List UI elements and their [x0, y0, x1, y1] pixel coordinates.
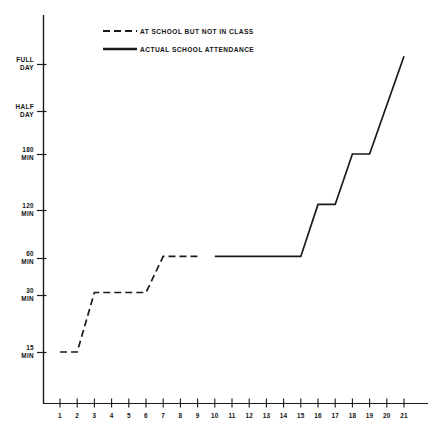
x-tick-label: 12 — [241, 412, 257, 420]
y-tick-label-line2: MIN — [0, 352, 34, 360]
y-tick-label-line2: MIN — [0, 154, 34, 162]
y-tick-label: 15 MIN — [0, 344, 34, 359]
legend-item-actual-school-attendance: ACTUAL SCHOOL ATTENDANCE — [103, 44, 254, 54]
x-tick-label: 19 — [362, 412, 378, 420]
y-tick-label-line2: MIN — [0, 295, 34, 303]
chart-plot-area — [0, 0, 438, 439]
x-tick-label: 17 — [327, 412, 343, 420]
x-tick-label: 6 — [138, 412, 154, 420]
y-tick-label-line1: FULL — [0, 56, 34, 64]
x-tick-label: 3 — [86, 412, 102, 420]
attendance-step-chart: FULL DAY HALF DAY 180 MIN 120 MIN 60 MIN… — [0, 0, 438, 439]
y-tick-label: 180 MIN — [0, 146, 34, 161]
y-tick-label: 120 MIN — [0, 202, 34, 217]
y-axis-ticks — [37, 65, 47, 353]
y-tick-label-line2: MIN — [0, 210, 34, 218]
y-tick-label-line2: DAY — [0, 111, 34, 119]
legend-label: ACTUAL SCHOOL ATTENDANCE — [140, 46, 254, 53]
x-tick-label: 10 — [207, 412, 223, 420]
y-tick-label-line1: 120 — [0, 202, 34, 210]
x-tick-label: 7 — [155, 412, 171, 420]
legend-dashed-line-icon — [103, 27, 137, 35]
x-tick-label: 15 — [293, 412, 309, 420]
series-at-school-not-in-class — [60, 256, 198, 352]
y-tick-label-line2: DAY — [0, 64, 34, 72]
y-tick-label: 30 MIN — [0, 287, 34, 302]
y-tick-label: 60 MIN — [0, 250, 34, 265]
y-tick-label-line1: 30 — [0, 287, 34, 295]
x-tick-label: 14 — [276, 412, 292, 420]
x-tick-label: 20 — [379, 412, 395, 420]
y-tick-label: HALF DAY — [0, 103, 34, 118]
series-actual-school-attendance — [215, 56, 404, 256]
x-tick-label: 8 — [172, 412, 188, 420]
x-tick-label: 9 — [190, 412, 206, 420]
y-tick-label-line1: 180 — [0, 146, 34, 154]
x-tick-label: 5 — [121, 412, 137, 420]
x-tick-label: 4 — [104, 412, 120, 420]
legend-item-at-school-not-in-class: AT SCHOOL BUT NOT IN CLASS — [103, 26, 254, 36]
x-tick-label: 2 — [69, 412, 85, 420]
legend-solid-line-icon — [103, 45, 137, 53]
x-tick-label: 1 — [52, 412, 68, 420]
y-tick-label: FULL DAY — [0, 56, 34, 71]
y-tick-label-line1: 60 — [0, 250, 34, 258]
x-tick-label: 11 — [224, 412, 240, 420]
x-tick-label: 16 — [310, 412, 326, 420]
y-tick-label-line2: MIN — [0, 258, 34, 266]
x-tick-label: 21 — [396, 412, 412, 420]
x-tick-label: 13 — [258, 412, 274, 420]
x-axis-ticks — [60, 399, 404, 408]
x-tick-label: 18 — [344, 412, 360, 420]
y-tick-label-line1: HALF — [0, 103, 34, 111]
y-tick-label-line1: 15 — [0, 344, 34, 352]
legend-label: AT SCHOOL BUT NOT IN CLASS — [140, 28, 254, 35]
